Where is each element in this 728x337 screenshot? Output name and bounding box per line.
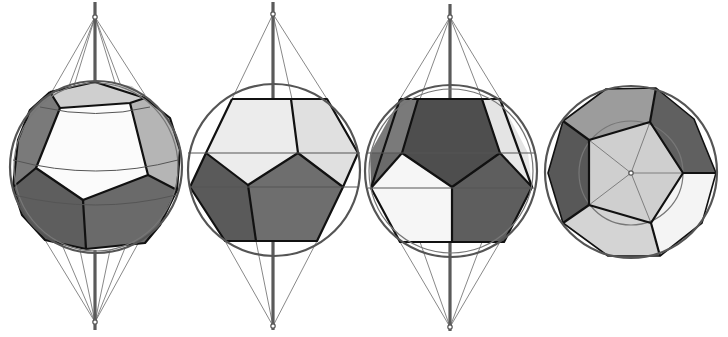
view-1-apex-top [93,15,97,19]
dodecahedron-diagram [0,0,728,337]
view-3-apex-bottom [448,325,452,329]
view-3-apex-top [448,15,452,19]
view-4-axis-point [629,171,633,175]
view-3-dodecahedron [365,4,537,331]
view-1-apex-bottom [93,320,97,324]
view-1-dodecahedron [10,2,182,330]
view-2-apex-bottom [271,324,275,328]
view-2-apex-top [271,12,275,16]
view-2-dodecahedron [188,2,360,330]
diagram-svg [0,0,728,337]
view-4-dodecahedron [545,86,717,258]
